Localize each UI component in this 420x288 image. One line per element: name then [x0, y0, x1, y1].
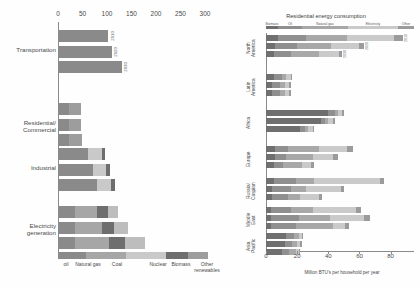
- right-bar-segment: [266, 154, 275, 160]
- right-legend-label: Natural gas: [316, 22, 333, 26]
- right-bar-segment: [266, 43, 275, 49]
- right-bar-segment: [275, 146, 287, 152]
- right-x-axis-label: Million BTU's per household per year: [304, 270, 379, 275]
- right-x-tick-label: 40: [325, 253, 332, 259]
- right-bar-segment: [347, 146, 353, 152]
- right-legend-swatch: [348, 26, 398, 29]
- left-legend-swatch: [126, 252, 166, 259]
- right-bar-segment: [291, 51, 319, 57]
- left-stacked-bar: [58, 30, 108, 42]
- left-x-tick-label: 250: [175, 10, 186, 17]
- left-legend-label: Biomass: [171, 261, 190, 267]
- right-stacked-bar: [266, 51, 342, 57]
- left-bar-segment: [75, 206, 97, 218]
- right-bar-segment: [394, 35, 403, 41]
- right-bar-segment: [333, 118, 335, 124]
- right-x-tick-mark: [266, 251, 267, 254]
- right-stacked-bar: [266, 82, 291, 88]
- right-bar-segment: [330, 215, 364, 221]
- left-bar-segment: [102, 222, 114, 234]
- right-category-label: Europe: [246, 144, 251, 174]
- left-bar-year-note: 2020: [113, 47, 118, 57]
- right-stacked-bar: [266, 90, 291, 96]
- right-x-tick-mark: [359, 251, 360, 254]
- left-category-label: Residential/Commercial: [2, 119, 56, 133]
- left-x-tick-label: 200: [151, 10, 162, 17]
- left-bar-year-note: 2030: [123, 62, 128, 72]
- right-bar-segment: [291, 186, 307, 192]
- left-bar-segment: [106, 164, 109, 176]
- right-bar-segment: [286, 154, 312, 160]
- right-stacked-bar: [266, 126, 314, 132]
- right-bar-year-note: 2030: [343, 50, 347, 58]
- right-bar-segment: [313, 207, 357, 213]
- right-bar-segment: [266, 146, 275, 152]
- right-stacked-bar: [266, 178, 384, 184]
- right-stacked-bar: [266, 194, 322, 200]
- right-bar-segment: [300, 194, 319, 200]
- right-bar-segment: [333, 154, 338, 160]
- right-bar-segment: [266, 74, 274, 80]
- right-bar-segment: [313, 154, 333, 160]
- left-bar-segment: [58, 222, 75, 234]
- left-bar-segment: [58, 61, 122, 73]
- right-bar-segment: [291, 74, 293, 80]
- right-bar-segment: [274, 162, 283, 168]
- left-bar-segment: [58, 103, 69, 115]
- right-bar-segment: [274, 74, 282, 80]
- right-bar-segment: [306, 35, 347, 41]
- left-legend-label: Nuclear: [149, 261, 166, 267]
- left-legend-label: oil: [63, 261, 68, 267]
- right-legend-label: Biomass: [265, 22, 278, 26]
- left-stacked-bar: [58, 119, 81, 131]
- left-bar-segment: [69, 134, 82, 146]
- right-bar-segment: [333, 223, 345, 229]
- left-bar-segment: [58, 46, 112, 58]
- right-stacked-bar: [266, 74, 292, 80]
- right-chart: Residential energy consumption BiomassOi…: [232, 0, 420, 288]
- right-legend-swatch: [266, 26, 278, 29]
- right-bar-segment: [342, 110, 344, 116]
- left-stacked-bar: [58, 103, 81, 115]
- right-stacked-bar: [266, 223, 349, 229]
- right-bar-segment: [282, 249, 290, 255]
- right-bar-segment: [313, 126, 315, 132]
- right-legend-swatch: [302, 26, 348, 29]
- right-bar-segment: [299, 215, 330, 221]
- right-bar-segment: [302, 162, 311, 168]
- right-stacked-bar: [266, 110, 344, 116]
- right-x-tick-mark: [297, 251, 298, 254]
- right-x-tick-mark: [391, 251, 392, 254]
- right-bar-segment: [271, 207, 291, 213]
- right-bar-year-note: 2020: [365, 42, 369, 50]
- right-bar-year-note: 2010: [404, 34, 408, 42]
- left-bar-segment: [88, 148, 101, 160]
- right-bar-segment: [278, 35, 306, 41]
- right-bar-segment: [266, 35, 278, 41]
- right-stacked-bar: [266, 241, 302, 247]
- right-category-label: Russia/Caspian: [246, 176, 257, 206]
- left-bar-segment: [75, 222, 102, 234]
- left-bar-segment: [58, 30, 108, 42]
- right-legend-swatch: [398, 26, 414, 29]
- left-x-tick-label: 150: [126, 10, 137, 17]
- left-bar-segment: [58, 179, 97, 191]
- right-bar-segment: [266, 51, 274, 57]
- right-bar-segment: [319, 146, 347, 152]
- left-x-tick-label: 300: [200, 10, 211, 17]
- left-stacked-bar: [58, 148, 105, 160]
- left-stacked-bar: [58, 61, 122, 73]
- right-legend-swatch: [278, 26, 302, 29]
- right-stacked-bar: [266, 43, 364, 49]
- right-bar-segment: [289, 90, 291, 96]
- right-category-label: LatinAmerica: [246, 72, 257, 102]
- figure-canvas: 050100150200250300 TransportationResiden…: [0, 0, 420, 288]
- right-bar-segment: [275, 43, 297, 49]
- right-bar-segment: [272, 82, 280, 88]
- left-bar-segment: [93, 164, 106, 176]
- right-bar-segment: [300, 241, 302, 247]
- right-stacked-bar: [266, 154, 338, 160]
- right-bar-segment: [302, 233, 304, 239]
- left-bar-year-note: 2010: [110, 31, 115, 41]
- right-bar-segment: [319, 51, 339, 57]
